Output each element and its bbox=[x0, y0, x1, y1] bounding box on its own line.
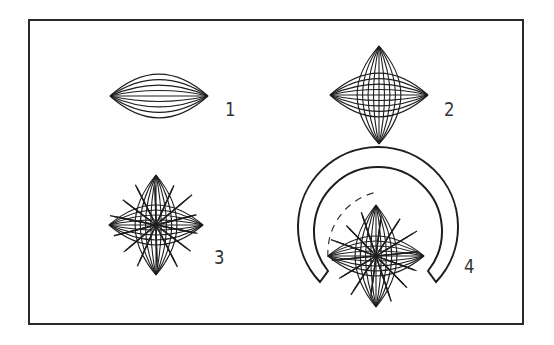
diagram-canvas: 1 2 3 4 bbox=[0, 0, 554, 345]
enclosed-spindle-figure-4 bbox=[298, 147, 458, 307]
spindle-figure-1 bbox=[110, 74, 208, 118]
radiating-spindle-figure-3 bbox=[109, 175, 203, 275]
crossed-spindle-figure-2 bbox=[330, 46, 428, 144]
diagram-svg bbox=[0, 0, 554, 345]
figure-label-1: 1 bbox=[225, 99, 235, 119]
figure-label-2: 2 bbox=[444, 99, 454, 119]
figure-label-3: 3 bbox=[214, 247, 224, 267]
figure-label-4: 4 bbox=[464, 256, 474, 276]
